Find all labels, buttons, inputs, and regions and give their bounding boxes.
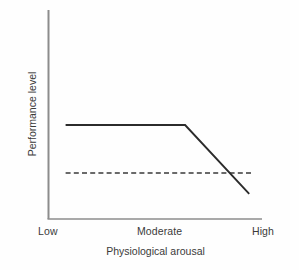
x-axis-title: Physiological arousal [0,245,299,257]
performance-curve-line [66,125,250,194]
x-tick-label-moderate: Moderate [137,225,182,237]
y-axis-title: Performance level [26,72,38,157]
x-tick-label-high: High [252,225,274,237]
x-tick-label-low: Low [38,225,58,237]
chart-container: Low Moderate High Physiological arousal … [0,0,299,270]
